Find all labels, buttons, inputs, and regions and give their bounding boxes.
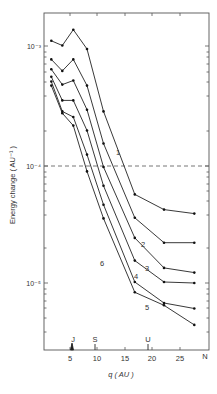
data-point [102,142,105,145]
data-point [72,28,75,31]
curve-label-2: 2 [141,240,145,249]
data-point [102,185,105,188]
data-point [61,44,64,47]
data-point [134,291,137,294]
data-point [102,203,105,206]
data-point [50,58,53,61]
right-ticks [205,46,209,332]
energy-change-chart: 10⁻³ 10⁻⁴ 10⁻⁵ Energy change ( AU⁻¹ ) 5 … [0,0,217,394]
planet-arrow-jupiter [71,343,74,350]
planet-label-jupiter: J [71,335,75,344]
y-tick-label-1e-4: 10⁻⁴ [26,163,41,170]
series-line-2 [51,59,194,242]
data-point [134,281,137,284]
y-axis-label: Energy change ( AU⁻¹ ) [8,145,17,224]
data-point [86,129,89,132]
data-point [163,241,166,244]
data-point [61,83,64,86]
planet-markers: J S U N [71,335,208,361]
data-point [163,304,166,307]
data-point [61,99,64,102]
data-point [163,281,166,284]
data-point [193,212,196,215]
data-point [86,153,89,156]
data-point [72,58,75,61]
data-point [72,124,75,127]
series-layer [50,28,196,326]
data-point [72,99,75,102]
x-tick-label-10: 10 [93,354,101,363]
data-point [61,70,64,73]
y-tick-label-1e-3: 10⁻³ [27,43,42,50]
data-point [193,271,196,274]
series-line-5 [51,82,194,309]
data-point [86,84,89,87]
data-point [86,108,89,111]
data-point [193,324,196,327]
bottom-ticks [70,347,180,350]
x-tick-label-5: 5 [68,354,72,363]
data-point [134,193,137,196]
data-point [163,267,166,270]
data-point [50,80,53,83]
data-point [134,259,137,262]
data-point [72,79,75,82]
x-tick-label-15: 15 [121,354,129,363]
data-point [134,217,137,220]
left-ticks [44,46,48,332]
curve-label-1: 1 [116,148,120,157]
x-tick-label-20: 20 [148,354,156,363]
data-point [193,282,196,285]
data-point [102,110,105,113]
data-point [61,112,64,115]
data-point [102,217,105,220]
data-point [50,84,53,87]
data-point [86,48,89,51]
data-point [72,116,75,119]
x-tick-label-25: 25 [176,354,184,363]
curve-label-3: 3 [145,264,149,273]
data-point [50,40,53,43]
planet-label-saturn: S [92,335,97,344]
curve-label-5: 5 [145,303,149,312]
data-point [163,302,166,305]
data-point [50,76,53,79]
data-point [193,241,196,244]
y-tick-label-1e-5: 10⁻⁵ [26,280,41,287]
data-point [163,208,166,211]
planet-label-neptune: N [202,352,207,361]
x-axis-label: q ( AU ) [108,370,134,379]
data-point [193,307,196,310]
data-point [86,170,89,173]
series-line-6 [51,86,194,325]
series-line-1 [51,30,194,214]
data-point [134,237,137,240]
curve-label-4: 4 [134,272,138,281]
data-point [50,68,53,71]
curve-label-6: 6 [100,259,104,268]
data-point [102,166,105,169]
planet-label-uranus: U [145,335,150,344]
